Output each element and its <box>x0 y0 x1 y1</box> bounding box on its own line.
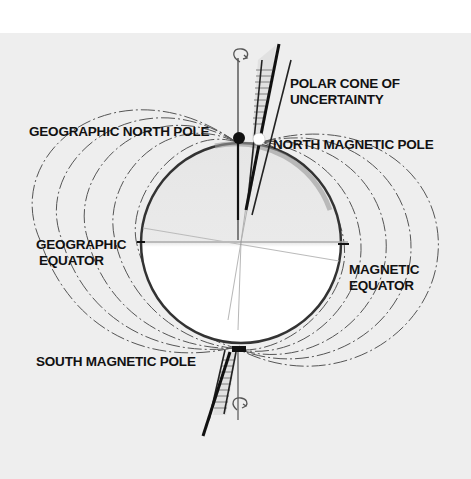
label-polar-cone-line1: POLAR CONE OF <box>290 76 400 92</box>
label-south-magnetic-pole: SOUTH MAGNETIC POLE <box>36 354 196 370</box>
rotation-arrow-top-icon <box>234 49 248 62</box>
label-magnetic-equator: MAGNETIC EQUATOR <box>349 262 419 294</box>
label-magnetic-equator-line2: EQUATOR <box>349 278 419 294</box>
label-polar-cone-line2: UNCERTAINTY <box>290 92 400 108</box>
north-magnetic-pole-marker <box>253 133 265 145</box>
label-geographic-equator-line2: EQUATOR <box>36 253 126 269</box>
label-magnetic-equator-line1: MAGNETIC <box>349 262 419 278</box>
label-polar-cone: POLAR CONE OF UNCERTAINTY <box>290 76 400 108</box>
label-geographic-equator: GEOGRAPHIC EQUATOR <box>36 237 126 269</box>
polar-cone-south <box>203 350 237 436</box>
label-north-magnetic-pole: NORTH MAGNETIC POLE <box>273 137 433 153</box>
south-magnetic-pole-marker <box>232 346 246 352</box>
label-geographic-north-pole: GEOGRAPHIC NORTH POLE <box>29 124 209 140</box>
rotation-arrow-bottom-icon <box>233 398 247 410</box>
label-geographic-equator-line1: GEOGRAPHIC <box>36 237 126 253</box>
geographic-north-pole-marker <box>233 132 245 144</box>
